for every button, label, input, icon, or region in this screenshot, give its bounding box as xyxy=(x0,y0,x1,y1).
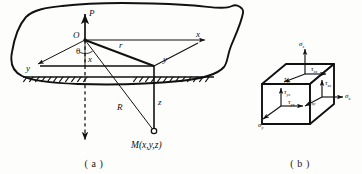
label-load-P: P xyxy=(88,8,95,18)
origin-point-marker xyxy=(83,38,86,41)
label-origin-O: O xyxy=(73,30,80,40)
label-axis-x: x xyxy=(195,29,200,39)
label-radial-r: r xyxy=(119,40,123,50)
point-M-marker xyxy=(151,128,156,133)
label-slant-R: R xyxy=(116,102,123,112)
caption-a: ( a ) xyxy=(84,158,103,170)
label-axis-y: y xyxy=(25,63,30,73)
label-sigma-z: σz xyxy=(299,40,304,49)
caption-b: ( b ) xyxy=(290,158,310,170)
label-depth-x: x xyxy=(87,54,92,64)
figure-svg: P O x y r y x θ R z M(x,y,z) σz τzx τzy … xyxy=(0,0,362,174)
half-space-boundary xyxy=(11,3,243,84)
label-depth-z: z xyxy=(157,97,162,107)
label-angle-theta: θ xyxy=(76,46,80,56)
label-sigma-x: σx xyxy=(345,92,351,101)
panel-a-group xyxy=(11,3,243,140)
figure-root: P O x y r y x θ R z M(x,y,z) σz τzx τzy … xyxy=(0,0,362,174)
projection-oblique-edge xyxy=(154,43,198,66)
label-point-M: M(x,y,z) xyxy=(130,140,162,151)
label-depth-y: y xyxy=(162,54,167,64)
